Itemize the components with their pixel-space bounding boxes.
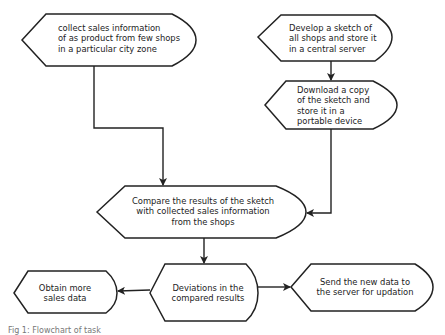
edge-collect-compare [94,66,163,185]
node-develop-label: Develop a sketch of all shops and store … [289,23,376,54]
node-collect-label: collect sales information of as product … [58,23,180,54]
node-compare-label: Compare the results of the sketch with c… [128,196,278,227]
edge-download-compare [307,129,331,213]
figure-caption: Fig 1: Flowchart of task [8,326,101,335]
node-obtain-label: Obtain more sales data [34,283,96,304]
node-send-label: Send the new data to the server for upda… [310,277,420,298]
node-download-label: Download a copy of the sketch and store … [297,85,370,127]
node-deviations-label: Deviations in the compared results [167,283,249,304]
edge-deviations-obtain [118,290,150,291]
